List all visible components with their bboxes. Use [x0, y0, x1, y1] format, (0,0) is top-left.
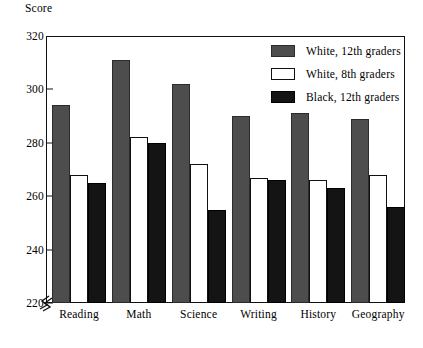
bar [387, 207, 405, 303]
y-tick-label: 300 [26, 83, 44, 95]
bar [327, 188, 345, 303]
bar [88, 183, 106, 303]
bar [70, 175, 88, 303]
y-axis-title: Score [25, 2, 52, 14]
bar [208, 210, 226, 303]
legend-item: Black, 12th graders [271, 86, 402, 107]
x-tick-label: Writing [240, 308, 277, 320]
x-tick-label: Geography [352, 308, 405, 320]
legend-label: White, 12th graders [306, 45, 401, 57]
legend-swatch-icon [271, 91, 295, 103]
x-tick-label: Science [180, 308, 217, 320]
x-tick-label: History [300, 308, 336, 320]
bar [148, 143, 166, 303]
x-tick-label: Reading [59, 308, 99, 320]
bar [172, 84, 190, 303]
bar [52, 105, 70, 303]
bar [309, 180, 327, 303]
bar [250, 178, 268, 303]
bar-chart: Score 220240260280300320 ReadingMathScie… [0, 0, 423, 348]
y-tick-label: 320 [26, 30, 44, 42]
bar [291, 113, 309, 303]
bar [130, 137, 148, 303]
legend-swatch-icon [271, 45, 295, 57]
bar [351, 119, 369, 303]
bar [232, 116, 250, 303]
bar [112, 60, 130, 303]
legend-label: Black, 12th graders [306, 91, 400, 103]
bar [268, 180, 286, 303]
x-tick-label: Math [126, 308, 151, 320]
legend-label: White, 8th graders [306, 68, 395, 80]
legend-swatch-icon [271, 68, 295, 80]
y-tick-label: 280 [26, 137, 44, 149]
bar [190, 164, 208, 303]
y-tick-label: 260 [26, 190, 44, 202]
bar [369, 175, 387, 303]
y-tick-label: 240 [26, 244, 44, 256]
legend-item: White, 12th graders [271, 40, 402, 61]
legend: White, 12th gradersWhite, 8th gradersBla… [271, 40, 402, 109]
legend-item: White, 8th graders [271, 63, 402, 84]
